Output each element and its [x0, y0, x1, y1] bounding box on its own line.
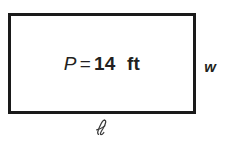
- rectangle-shape: [8, 13, 196, 114]
- length-label: [91, 117, 113, 139]
- width-label: w: [199, 55, 221, 77]
- rectangle-perimeter-figure: P=14 ft w: [0, 0, 231, 152]
- script-ell-icon: [95, 118, 109, 138]
